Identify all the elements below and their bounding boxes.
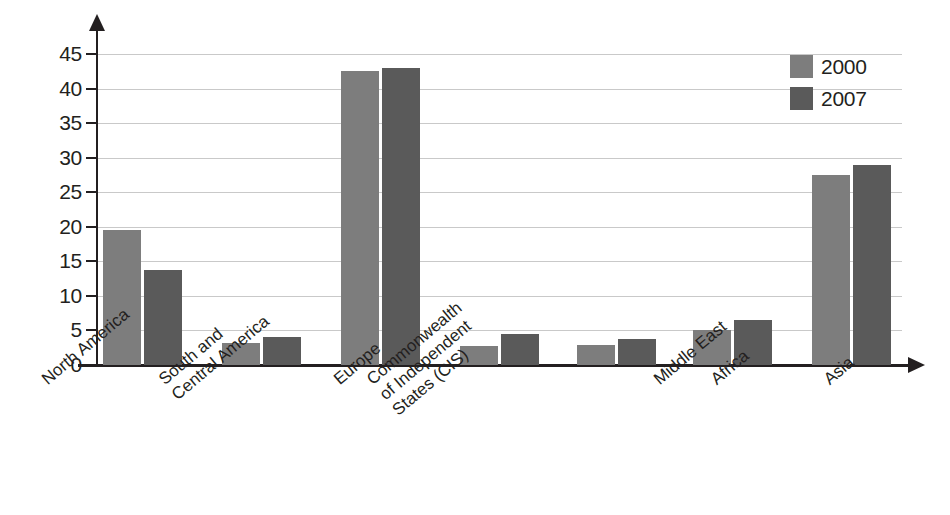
chart-legend: 2000 2007 — [790, 50, 920, 114]
y-tick-label: 15 — [42, 250, 82, 271]
bar[interactable] — [144, 270, 182, 365]
bar[interactable] — [577, 345, 615, 365]
legend-item[interactable]: 2007 — [790, 82, 920, 114]
bar[interactable] — [853, 165, 891, 365]
y-tick-mark — [86, 191, 98, 193]
y-tick-mark — [86, 295, 98, 297]
arrow-up-icon — [89, 14, 105, 31]
y-tick-mark — [86, 226, 98, 228]
y-tick-label: 35 — [42, 112, 82, 133]
y-tick-label: 5 — [42, 319, 82, 340]
legend-swatch-2007 — [790, 87, 813, 110]
bar[interactable] — [618, 339, 656, 365]
y-tick-label: 45 — [42, 43, 82, 64]
bar-chart: 051015202530354045 North AmericaSouth an… — [0, 0, 950, 515]
bar[interactable] — [103, 230, 141, 365]
legend-swatch-2000 — [790, 55, 813, 78]
bar[interactable] — [382, 68, 420, 365]
arrow-right-icon — [908, 357, 925, 373]
y-tick-mark — [86, 364, 98, 366]
y-axis-line — [96, 28, 98, 366]
bar[interactable] — [501, 334, 539, 365]
legend-item[interactable]: 2000 — [790, 50, 920, 82]
y-tick-mark — [86, 157, 98, 159]
legend-label-2000: 2000 — [821, 56, 867, 77]
bar-group — [693, 54, 773, 365]
bar-group — [460, 54, 540, 365]
y-tick-label: 30 — [42, 147, 82, 168]
y-tick-mark — [86, 260, 98, 262]
y-tick-label: 10 — [42, 285, 82, 306]
bar-group — [341, 54, 421, 365]
y-tick-mark — [86, 122, 98, 124]
bar[interactable] — [812, 175, 850, 365]
y-tick-mark — [86, 53, 98, 55]
bar[interactable] — [263, 337, 301, 365]
bar[interactable] — [341, 71, 379, 365]
y-tick-label: 25 — [42, 181, 82, 202]
legend-label-2007: 2007 — [821, 88, 867, 109]
y-tick-label: 20 — [42, 216, 82, 237]
bar-group — [577, 54, 657, 365]
y-tick-mark — [86, 88, 98, 90]
y-tick-label: 40 — [42, 78, 82, 99]
